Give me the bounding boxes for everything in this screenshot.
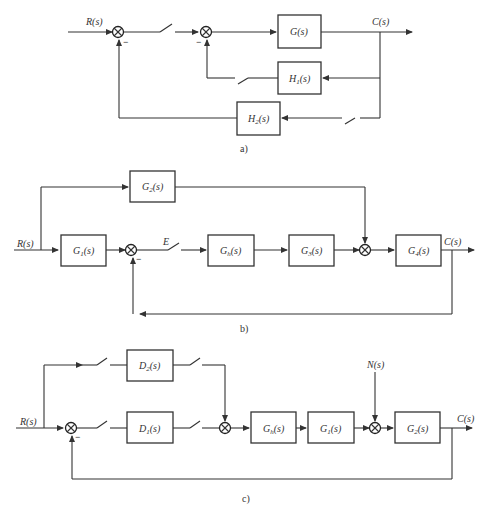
output-label-c: C(s) (457, 413, 475, 425)
input-label-a: R(s) (85, 16, 103, 28)
output-label-a: C(s) (372, 16, 390, 28)
block-label: G(s) (290, 26, 308, 38)
summing-junction-b2 (360, 245, 371, 256)
minus-sign: − (196, 37, 201, 47)
error-label: E (162, 236, 169, 247)
output-label-b: C(s) (444, 236, 462, 248)
input-label-c: R(s) (19, 416, 37, 428)
diagram-a: R(s) − − G(s) C(s) H1(s) (68, 15, 412, 155)
block-diagrams: R(s) − − G(s) C(s) H1(s) (0, 0, 485, 511)
caption-c: c) (242, 493, 250, 505)
diagram-b: R(s) G2(s) G1(s) − E Gh(s) G3(s) (14, 171, 474, 335)
summing-junction-a2 (201, 27, 212, 38)
caption-b: b) (240, 323, 248, 335)
input-label-b: R(s) (16, 238, 34, 250)
summing-junction-a1 (113, 27, 124, 38)
summing-junction-c2 (220, 423, 231, 434)
sampler-switch-icon (160, 24, 172, 32)
diagram-c: R(s) D2(s) − D1(s) (16, 350, 475, 505)
disturbance-label: N(s) (366, 359, 385, 371)
summing-junction-b1 (126, 245, 137, 256)
summing-junction-c3 (370, 423, 381, 434)
caption-a: a) (240, 143, 248, 155)
minus-sign: − (136, 254, 141, 264)
minus-sign: − (75, 432, 80, 442)
minus-sign: − (123, 37, 128, 47)
